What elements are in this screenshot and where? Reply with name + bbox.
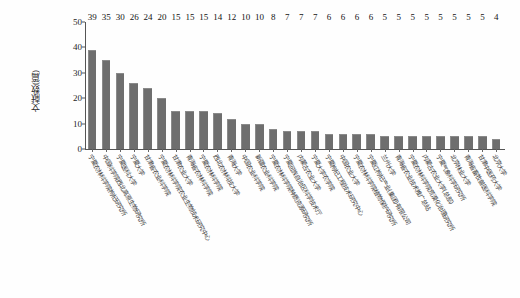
bar — [394, 136, 403, 149]
bar — [325, 134, 334, 149]
bar-slot: 20 — [155, 22, 169, 149]
bar — [102, 60, 111, 149]
bar — [436, 136, 445, 149]
bar-value-label: 5 — [383, 12, 388, 22]
bar-slot: 15 — [197, 22, 211, 149]
bar-value-label: 5 — [452, 12, 457, 22]
bar-slot: 35 — [99, 22, 113, 149]
bar-slot: 5 — [447, 22, 461, 149]
bar-slot: 15 — [183, 22, 197, 149]
bar-value-label: 5 — [438, 12, 443, 22]
bar-value-label: 6 — [341, 12, 346, 22]
bar-value-label: 15 — [185, 12, 194, 22]
bar-slot: 5 — [392, 22, 406, 149]
bar-value-label: 39 — [88, 12, 97, 22]
bar — [478, 136, 487, 149]
bar-value-label: 5 — [466, 12, 471, 22]
bar — [116, 73, 125, 149]
bar-slot: 30 — [113, 22, 127, 149]
bar — [129, 83, 138, 149]
bar-value-label: 10 — [241, 12, 250, 22]
bar-slot: 10 — [252, 22, 266, 149]
bar — [366, 134, 375, 149]
bar-slot: 5 — [475, 22, 489, 149]
bar-value-label: 30 — [116, 12, 125, 22]
bar-value-label: 5 — [410, 12, 415, 22]
bar-slot: 14 — [210, 22, 224, 149]
bar — [283, 131, 292, 149]
bar-slot: 5 — [420, 22, 434, 149]
bar-value-label: 6 — [355, 12, 360, 22]
bar — [380, 136, 389, 149]
bar — [269, 129, 278, 149]
bar-slot: 39 — [85, 22, 99, 149]
bar — [422, 136, 431, 149]
bar-slot: 5 — [406, 22, 420, 149]
bar-value-label: 24 — [144, 12, 153, 22]
bar-slot: 5 — [433, 22, 447, 149]
bar-slot: 6 — [350, 22, 364, 149]
bar-slot: 8 — [266, 22, 280, 149]
bar — [311, 131, 320, 149]
bar-slot: 6 — [364, 22, 378, 149]
bar-value-label: 5 — [397, 12, 402, 22]
bar — [297, 131, 306, 149]
bar — [227, 119, 236, 149]
bar-slot: 5 — [378, 22, 392, 149]
bar — [143, 88, 152, 149]
bar-slot: 26 — [127, 22, 141, 149]
bar-slot: 4 — [489, 22, 503, 149]
bar-value-label: 26 — [130, 12, 139, 22]
bar-chart-figure: 文献数(篇) 01020304050 393530262420151515141… — [0, 0, 520, 298]
bar-value-label: 8 — [271, 12, 276, 22]
bar — [213, 113, 222, 149]
bar-value-label: 7 — [313, 12, 318, 22]
bar-value-label: 14 — [213, 12, 222, 22]
bar-value-label: 5 — [424, 12, 429, 22]
bar-value-label: 6 — [327, 12, 332, 22]
bar — [352, 134, 361, 149]
bar — [408, 136, 417, 149]
bar-series: 3935302624201515151412101087776666555555… — [85, 22, 503, 149]
bar-value-label: 15 — [171, 12, 180, 22]
bar-slot: 24 — [141, 22, 155, 149]
bar-value-label: 15 — [199, 12, 208, 22]
y-axis-label: 文献数(篇) — [28, 36, 42, 146]
bar-value-label: 6 — [369, 12, 374, 22]
bar-slot: 7 — [280, 22, 294, 149]
bar — [199, 111, 208, 149]
bar-slot: 6 — [336, 22, 350, 149]
bar — [492, 139, 501, 149]
bar — [185, 111, 194, 149]
bar-slot: 7 — [294, 22, 308, 149]
bar — [450, 136, 459, 149]
bar-value-label: 10 — [255, 12, 264, 22]
bar-slot: 15 — [169, 22, 183, 149]
bar-slot: 10 — [238, 22, 252, 149]
bar — [339, 134, 348, 149]
bar-slot: 12 — [224, 22, 238, 149]
bar-value-label: 7 — [285, 12, 290, 22]
bar-value-label: 35 — [102, 12, 111, 22]
plot-area: 01020304050 3935302624201515151412101087… — [85, 22, 503, 149]
bar — [88, 50, 97, 149]
bar-value-label: 12 — [227, 12, 236, 22]
bar-value-label: 20 — [158, 12, 167, 22]
bar-value-label: 4 — [494, 12, 499, 22]
bar-slot: 6 — [322, 22, 336, 149]
bar — [241, 124, 250, 149]
bar — [255, 124, 264, 149]
x-axis-category-labels: 宁夏农林科学院枸杞研究所中国科学院西北高原生物研究所宁夏医科大学宁夏大学甘肃省农… — [85, 153, 505, 293]
bar — [464, 136, 473, 149]
bar-value-label: 5 — [480, 12, 485, 22]
bar — [171, 111, 180, 149]
bar — [157, 98, 166, 149]
bar-value-label: 7 — [299, 12, 304, 22]
bar-slot: 5 — [461, 22, 475, 149]
bar-slot: 7 — [308, 22, 322, 149]
